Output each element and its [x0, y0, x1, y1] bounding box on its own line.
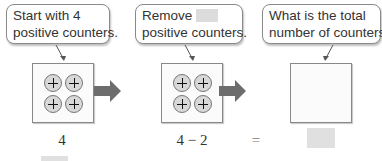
speech-bubble-start: Start with 4 positive counters.	[6, 4, 110, 44]
positive-counter-icon	[194, 74, 212, 92]
counter-box-start	[32, 63, 94, 123]
equation-term-start: 4	[52, 132, 72, 149]
bubble-text-line1: Remove	[142, 7, 236, 24]
counter-box-result	[290, 63, 352, 123]
positive-counter-icon	[65, 95, 83, 113]
pointer-arrow-icon	[54, 44, 68, 62]
positive-counter-icon	[194, 95, 212, 113]
right-arrow-icon	[94, 80, 122, 102]
equation-term-subtraction: 4 − 2	[170, 132, 214, 149]
blank-box-partial	[41, 156, 68, 161]
equals-sign: =	[248, 132, 264, 149]
positive-counter-icon	[44, 95, 62, 113]
bubble-text-line2: positive counters.	[142, 24, 236, 41]
positive-counter-icon	[173, 74, 191, 92]
positive-counter-icon	[65, 74, 83, 92]
pointer-arrow-icon	[321, 44, 335, 62]
positive-counter-icon	[173, 95, 191, 113]
answer-blank-box	[307, 128, 335, 148]
positive-counter-icon	[44, 74, 62, 92]
bubble-text-line1: Start with 4	[13, 7, 103, 24]
bubble-text-line1: What is the total	[269, 7, 374, 24]
right-arrow-icon	[219, 80, 247, 102]
bubble-text-line2: positive counters.	[13, 24, 103, 41]
counter-box-remove	[161, 63, 223, 123]
speech-bubble-total: What is the total number of counters?	[262, 4, 381, 44]
pointer-arrow-icon	[183, 44, 197, 62]
speech-bubble-remove: Remove positive counters.	[135, 4, 243, 44]
bubble-text-line2: number of counters?	[269, 24, 374, 41]
blank-answer-box	[196, 9, 218, 22]
